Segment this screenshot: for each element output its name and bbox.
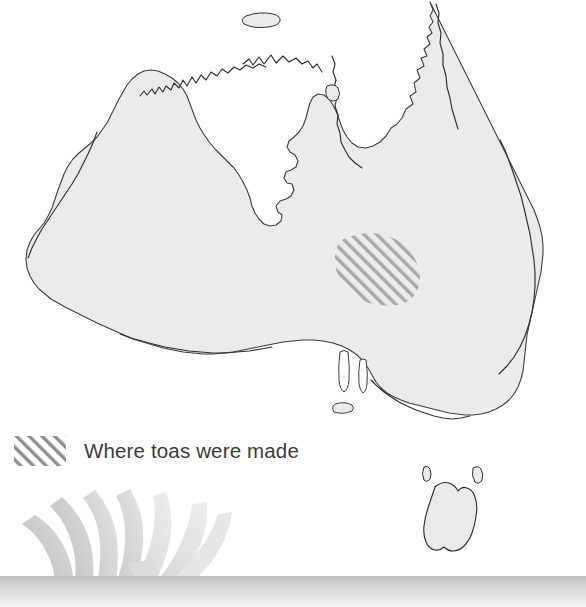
kangaroo-island: [333, 403, 354, 414]
tasmania: [424, 483, 477, 552]
legend: Where toas were made: [14, 434, 299, 468]
gulf-st-vincent: [359, 359, 368, 393]
groote-eylandt: [326, 85, 340, 101]
mainland-group: [26, 2, 543, 415]
arnhem-land-coast: [243, 55, 322, 72]
south-australia-gulfs: [333, 351, 368, 414]
bottom-band-group: [0, 576, 586, 607]
bottom-band: [0, 576, 586, 607]
legend-label: Where toas were made: [84, 441, 299, 462]
flinders-island: [472, 467, 482, 483]
melville-island: [242, 13, 280, 28]
map-figure: Where toas were made: [0, 0, 586, 607]
mainland-australia: [26, 2, 543, 415]
australia-map: [0, 0, 586, 607]
spencer-gulf: [339, 351, 350, 393]
diagonal-hatch-swatch: [14, 436, 66, 466]
king-island: [423, 466, 432, 481]
